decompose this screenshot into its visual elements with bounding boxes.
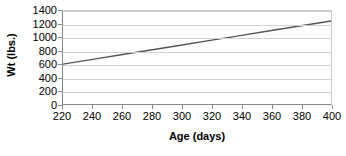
x-tick-mark-260 [122, 105, 123, 109]
x-tick-mark-240 [92, 105, 93, 109]
y-axis-tick-labels: 1400120010008006004002000 [20, 4, 60, 106]
gridline-y-200 [63, 92, 331, 93]
x-tick-mark-300 [182, 105, 183, 109]
line-chart: Wt (lbs.) 1400120010008006004002000 2202… [0, 0, 346, 156]
y-tick-mark-800 [58, 51, 62, 52]
y-tick-label-400: 400 [19, 72, 57, 84]
plot-area [62, 10, 332, 105]
x-tick-mark-340 [242, 105, 243, 109]
y-tick-mark-600 [58, 64, 62, 65]
y-tick-label-1200: 1200 [19, 18, 57, 30]
x-tick-mark-400 [332, 105, 333, 109]
x-axis-tick-labels: 220240260280300320340360380400 [0, 110, 346, 126]
gridline-y-1000 [63, 38, 331, 39]
y-axis-title-label: Wt (lbs.) [5, 33, 17, 76]
gridline-y-1400 [63, 11, 331, 12]
x-tick-mark-360 [272, 105, 273, 109]
y-tick-label-1000: 1000 [19, 31, 57, 43]
y-tick-label-600: 600 [19, 58, 57, 70]
x-axis-title: Age (days) [62, 130, 332, 142]
x-tick-mark-320 [212, 105, 213, 109]
gridline-y-1200 [63, 25, 331, 26]
gridline-y-400 [63, 79, 331, 80]
gridline-y-600 [63, 65, 331, 66]
x-tick-mark-380 [302, 105, 303, 109]
y-tick-label-800: 800 [19, 45, 57, 57]
y-tick-mark-1200 [58, 24, 62, 25]
x-tick-mark-220 [62, 105, 63, 109]
y-tick-mark-1000 [58, 37, 62, 38]
y-tick-mark-200 [58, 91, 62, 92]
y-tick-mark-400 [58, 78, 62, 79]
y-tick-label-1400: 1400 [19, 4, 57, 16]
gridline-y-800 [63, 52, 331, 53]
x-tick-mark-280 [152, 105, 153, 109]
y-tick-label-200: 200 [19, 85, 57, 97]
y-tick-mark-1400 [58, 10, 62, 11]
x-tick-label-400: 400 [312, 110, 346, 123]
